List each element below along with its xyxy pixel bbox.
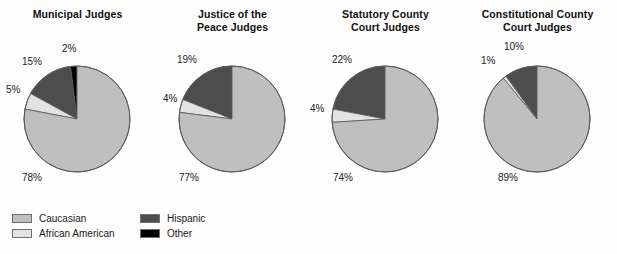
- slice-value-label: 77%: [179, 172, 199, 183]
- pie-chart-figure: Municipal Judges78%5%15%2%Justice of the…: [0, 0, 617, 254]
- legend-item-other: Other: [140, 226, 192, 240]
- pie-graphic: 74%4%22%: [308, 0, 463, 200]
- slice-value-label: 5%: [6, 84, 20, 95]
- slice-value-label: 22%: [332, 54, 352, 65]
- legend-label: Caucasian: [39, 213, 86, 224]
- pie-slice-caucasian: [484, 66, 590, 172]
- slice-value-label: 4%: [163, 93, 177, 104]
- slice-value-label: 74%: [333, 172, 353, 183]
- pie-chart-4: Constitutional CountyCourt Judges89%1%10…: [460, 0, 615, 200]
- pie-svg: [0, 0, 155, 200]
- slice-value-label: 4%: [310, 103, 324, 114]
- slice-value-label: 78%: [22, 172, 42, 183]
- legend-label: African American: [39, 228, 115, 239]
- chart-legend: CaucasianAfrican AmericanHispanicOther: [12, 211, 272, 245]
- pie-svg: [308, 0, 463, 200]
- pie-chart-1: Municipal Judges78%5%15%2%: [0, 0, 155, 200]
- slice-value-label: 89%: [498, 172, 518, 183]
- legend-label: Other: [167, 228, 192, 239]
- legend-item-hispanic: Hispanic: [140, 211, 205, 225]
- pie-graphic: 89%1%10%: [460, 0, 615, 200]
- pie-graphic: 78%5%15%2%: [0, 0, 155, 200]
- legend-swatch-icon: [12, 229, 32, 238]
- pie-svg: [460, 0, 615, 200]
- slice-value-label: 1%: [481, 55, 495, 66]
- pie-chart-3: Statutory CountyCourt Judges74%4%22%: [308, 0, 463, 200]
- legend-swatch-icon: [12, 214, 32, 223]
- legend-swatch-icon: [140, 214, 160, 223]
- slice-value-label: 19%: [177, 54, 197, 65]
- slice-value-label: 10%: [504, 41, 524, 52]
- pie-chart-2: Justice of thePeace Judges77%4%19%: [155, 0, 310, 200]
- legend-item-african-american: African American: [12, 226, 115, 240]
- slice-value-label: 2%: [62, 43, 76, 54]
- legend-swatch-icon: [140, 229, 160, 238]
- pie-graphic: 77%4%19%: [155, 0, 310, 200]
- pie-svg: [155, 0, 310, 200]
- slice-value-label: 15%: [22, 56, 42, 67]
- legend-item-caucasian: Caucasian: [12, 211, 86, 225]
- legend-label: Hispanic: [167, 213, 205, 224]
